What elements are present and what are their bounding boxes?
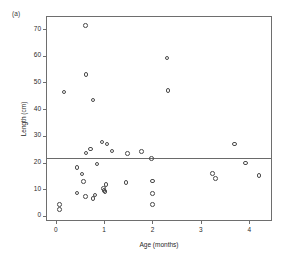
data-point [166, 88, 171, 93]
x-tick-label: 1 [94, 226, 114, 233]
data-point [75, 191, 80, 196]
y-tick-label: 70 [17, 25, 41, 32]
data-point [83, 23, 88, 28]
data-point [75, 165, 80, 170]
data-point [139, 149, 144, 154]
data-point [81, 179, 86, 184]
data-point [165, 56, 170, 61]
data-point [213, 176, 218, 181]
data-point [257, 173, 262, 178]
x-tick-label: 0 [46, 226, 66, 233]
y-tick-label: 60 [17, 51, 41, 58]
data-point [210, 171, 215, 176]
data-point [103, 189, 108, 194]
data-point [150, 191, 155, 196]
scatter-plot-figure: (a) Length (cm) 010203040506070 01234 Ag… [0, 0, 282, 261]
data-points-layer [47, 17, 271, 220]
x-tick-label: 2 [142, 226, 162, 233]
data-point [124, 180, 129, 185]
data-point [150, 179, 155, 184]
data-point [149, 156, 154, 161]
data-point [125, 151, 130, 156]
y-axis-label-container: Length (cm) [2, 16, 16, 221]
data-point [232, 142, 237, 147]
y-tick-label: 50 [17, 78, 41, 85]
data-point [95, 162, 100, 167]
data-point [62, 90, 67, 95]
x-tick-mark [201, 220, 202, 224]
data-point [80, 172, 85, 177]
x-tick-label: 3 [191, 226, 211, 233]
data-point [91, 98, 96, 103]
y-tick-label: 30 [17, 131, 41, 138]
data-point [88, 147, 93, 152]
x-tick-mark [56, 220, 57, 224]
y-tick-label: 20 [17, 158, 41, 165]
data-point [57, 207, 62, 212]
data-point [84, 72, 89, 77]
x-tick-mark [249, 220, 250, 224]
data-point [83, 194, 88, 199]
x-tick-mark [104, 220, 105, 224]
y-tick-label: 0 [17, 211, 41, 218]
data-point [110, 149, 115, 154]
x-tick-label: 4 [239, 226, 259, 233]
x-tick-mark [152, 220, 153, 224]
x-axis-label: Age (months) [46, 241, 272, 248]
y-tick-label: 40 [17, 105, 41, 112]
data-point [100, 140, 105, 145]
data-point [105, 142, 110, 147]
y-tick-label: 10 [17, 185, 41, 192]
data-point [243, 161, 248, 166]
data-point [84, 151, 89, 156]
data-point [150, 202, 155, 207]
data-point [104, 182, 109, 187]
plot-area-frame: 010203040506070 01234 [46, 16, 272, 221]
data-point [93, 193, 98, 198]
